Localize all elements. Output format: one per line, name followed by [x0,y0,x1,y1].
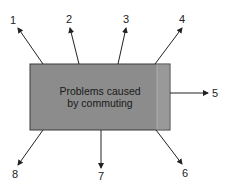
arrow-label-8: 8 [12,168,18,180]
arrow-1 [18,28,43,64]
arrow-3 [118,28,126,64]
arrow-2 [70,28,79,64]
arrow-label-7: 7 [98,170,104,182]
arrow-label-2: 2 [66,13,72,25]
arrow-label-3: 3 [123,13,129,25]
arrow-label-5: 5 [212,87,218,99]
arrow-label-4: 4 [179,13,185,25]
arrow-6 [156,130,182,164]
arrow-8 [18,130,43,165]
arrow-4 [155,28,182,64]
center-box: Problems caused by commuting [30,64,170,130]
center-text-line2: by commuting [67,97,133,109]
arrow-label-6: 6 [182,167,188,179]
spider-diagram: Problems caused by commuting 1 2 3 4 5 6… [0,0,228,186]
arrow-label-1: 1 [10,14,16,26]
center-text-line1: Problems caused [59,85,140,97]
